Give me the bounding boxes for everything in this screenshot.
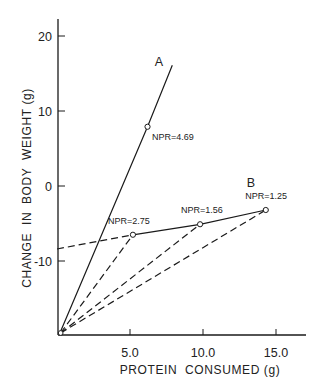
- data-point-marker: [130, 232, 135, 237]
- series-line-a: [60, 65, 172, 333]
- series-line-npr-ray-2-75: [61, 235, 133, 333]
- npr-label: NPR=1.25: [245, 191, 287, 201]
- y-axis-title: CHANGE IN BODY WEIGHT (g): [20, 88, 34, 288]
- data-point-marker: [197, 222, 202, 227]
- y-tick-label: -10: [34, 255, 52, 269]
- plot-lines: [57, 65, 266, 333]
- npr-label: NPR=2.75: [108, 216, 150, 226]
- y-tick-label: 20: [38, 30, 52, 44]
- x-tick-label: 5.0: [121, 346, 138, 360]
- annotations: ABNPR=4.69NPR=2.75NPR=1.56NPR=1.25: [108, 55, 287, 226]
- data-point-marker: [145, 124, 150, 129]
- y-tick-label: 0: [45, 180, 52, 194]
- x-axis-title: PROTEIN CONSUMED (g): [120, 363, 281, 377]
- series-label-b: B: [247, 176, 255, 190]
- npr-label: NPR=1.56: [181, 205, 223, 215]
- x-tick-label: 15.0: [264, 346, 288, 360]
- axes: [58, 19, 306, 335]
- series-line-npr-ray-1-56: [61, 224, 201, 333]
- origin-marker: [58, 331, 63, 336]
- npr-label: NPR=4.69: [152, 132, 194, 142]
- npr-line-chart: 5.010.015.020100-10 ABNPR=4.69NPR=2.75NP…: [0, 0, 320, 385]
- data-point-marker: [263, 207, 268, 212]
- series-line-npr-ray-1-25: [61, 210, 266, 333]
- y-tick-label: 10: [38, 105, 52, 119]
- series-line-b-extrapolation-to-y-axis: [57, 235, 133, 249]
- series-label-a: A: [155, 55, 164, 69]
- x-tick-label: 10.0: [191, 346, 215, 360]
